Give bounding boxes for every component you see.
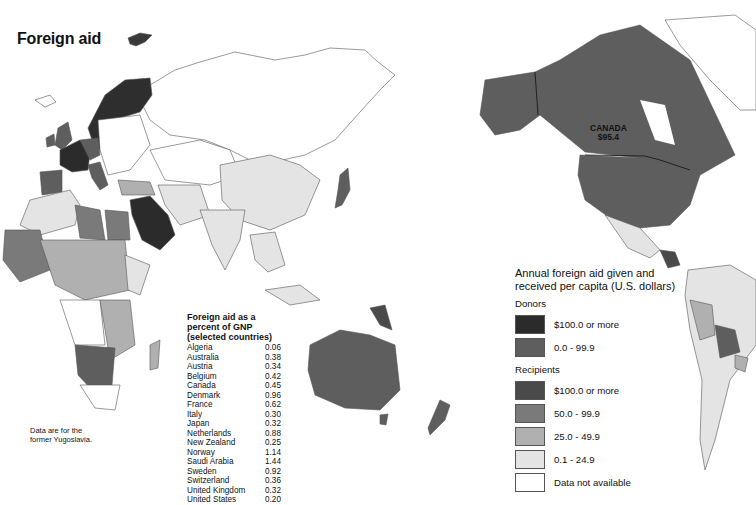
gnp-row: Norway1.14 [187,448,287,458]
legend-item-recip-01: 0.1 - 24.9 [515,448,715,470]
gnp-row: France0.62 [187,400,287,410]
gnp-country: Sweden [187,467,217,477]
footnote: Data are for the former Yugoslavia. [30,426,92,444]
gnp-heading-line3: (selected countries) [187,332,287,342]
central-africa [40,240,130,300]
canada-label: CANADA $95.4 [590,124,627,142]
legend-swatch [515,473,545,492]
legend-item-recip-100: $100.0 or more [515,379,715,401]
congo-region [60,300,105,345]
gnp-row: Switzerland0.36 [187,476,287,486]
gnp-row: Australia0.38 [187,353,287,363]
svalbard [128,33,152,46]
gnp-heading-line1: Foreign aid as a [187,312,287,322]
libya [75,205,105,240]
indonesia [265,285,320,305]
gnp-value: 0.25 [265,438,287,448]
legend-title-line2: received per capita (U.S. dollars) [515,280,715,293]
eastern-europe [98,115,150,175]
gnp-country: Belgium [187,372,217,382]
gnp-country: France [187,400,212,410]
new-zealand [428,400,450,435]
ireland [46,134,55,147]
gnp-value: 0.32 [265,419,287,429]
legend-swatch [515,427,545,446]
gnp-value: 0.38 [265,353,287,363]
gnp-country: Austria [187,362,212,372]
legend-item-recip-50: 50.0 - 99.9 [515,402,715,424]
gnp-row: New Zealand0.25 [187,438,287,448]
legend-swatch [515,338,545,357]
gnp-value: 0.36 [265,476,287,486]
iceland [35,95,56,107]
madagascar [150,340,160,370]
gnp-row: Sweden0.92 [187,467,287,477]
gnp-value: 0.06 [265,343,287,353]
footnote-line2: former Yugoslavia. [30,435,92,444]
gnp-country: Norway [187,448,215,458]
gnp-country: Saudi Arabia [187,457,233,467]
gnp-heading-line2: percent of GNP [187,322,287,332]
australia [308,330,400,410]
gnp-country: Algeria [187,343,213,353]
gnp-row: Denmark0.96 [187,391,287,401]
gnp-country: Denmark [187,391,220,401]
gnp-country: Italy [187,410,202,420]
north-africa-west [20,190,80,235]
gnp-row: United Kingdom0.32 [187,486,287,496]
legend-label: 0.0 - 99.9 [554,342,595,353]
egypt [105,210,130,240]
gnp-row: Italy0.30 [187,410,287,420]
alaska [480,72,540,135]
gnp-table: Foreign aid as a percent of GNP (selecte… [187,312,287,505]
gnp-value: 0.42 [265,372,287,382]
gnp-table-heading: Foreign aid as a percent of GNP (selecte… [187,312,287,342]
map-title: Foreign aid [17,30,101,48]
legend-label: Data not available [554,477,631,488]
west-africa [3,230,50,282]
legend-label: 0.1 - 24.9 [554,454,595,465]
legend-donors-heading: Donors [515,298,715,309]
papua-new-guinea [370,305,392,330]
legend-title-line1: Annual foreign aid given and [515,267,715,280]
gnp-value: 1.44 [265,457,287,467]
central-america [660,250,680,268]
turkey [118,180,155,195]
gnp-row: Netherlands0.88 [187,429,287,439]
gnp-value: 0.88 [265,429,287,439]
gnp-country: New Zealand [187,438,235,448]
gnp-value: 0.62 [265,400,287,410]
gnp-value: 0.96 [265,391,287,401]
namibia-botswana [75,345,115,390]
iberia [40,170,62,195]
southeast-asia [250,232,285,272]
tasmania [380,414,388,425]
legend-label: 50.0 - 99.9 [554,408,600,419]
gnp-value: 0.30 [265,410,287,420]
gnp-row: Austria0.34 [187,362,287,372]
japan [335,168,350,208]
legend-swatch [515,450,545,469]
gnp-row: Saudi Arabia1.44 [187,457,287,467]
gnp-country: United Kingdom [187,486,245,496]
legend-swatch [515,404,545,423]
gnp-value: 0.20 [265,495,287,505]
gnp-value: 0.92 [265,467,287,477]
legend-item-recip-25: 25.0 - 49.9 [515,425,715,447]
gnp-country: Switzerland [187,476,229,486]
south-africa [80,385,120,410]
gnp-value: 0.32 [265,486,287,496]
gnp-row: Belgium0.42 [187,372,287,382]
gnp-country: Australia [187,353,219,363]
gnp-country: Canada [187,381,216,391]
south-asia [200,210,245,270]
legend-item-donor-low: 0.0 - 99.9 [515,336,715,358]
gnp-country: United States [187,495,236,505]
gnp-country: Japan [187,419,209,429]
legend-title: Annual foreign aid given and received pe… [515,267,715,293]
legend: Annual foreign aid given and received pe… [515,267,715,494]
legend-label: $100.0 or more [554,385,619,396]
gnp-value: 1.14 [265,448,287,458]
gnp-country: Netherlands [187,429,231,439]
legend-item-donor-high: $100.0 or more [515,313,715,335]
